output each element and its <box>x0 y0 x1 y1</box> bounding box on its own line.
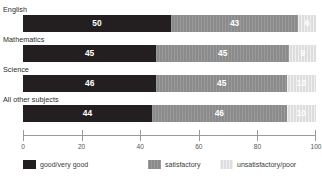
axis-tick-label: 0 <box>21 143 25 151</box>
axis-tick <box>82 130 83 141</box>
row-label: Science <box>3 66 29 74</box>
legend-item-sat[interactable]: satisfactory <box>148 160 200 169</box>
bar-segment-unsat: 6 <box>298 15 316 32</box>
chart-legend: good/very goodsatisfactoryunsatisfactory… <box>0 160 321 174</box>
bar-segment-good: 50 <box>23 15 171 32</box>
legend-swatch-icon <box>148 160 161 169</box>
axis-tick <box>199 130 200 141</box>
axis-tick <box>257 130 258 141</box>
stacked-bar: 464510 <box>23 75 316 92</box>
bar-segment-sat: 45 <box>156 75 287 92</box>
bar-segment-value: 43 <box>230 19 239 27</box>
legend-swatch-icon <box>23 160 36 169</box>
row-label: All other subjects <box>3 96 59 104</box>
bar-segment-value: 10 <box>297 109 306 117</box>
bar-segment-value: 45 <box>85 49 94 57</box>
axis-tick-label: 80 <box>254 143 261 151</box>
legend-label: satisfactory <box>165 160 200 169</box>
axis-tick-label: 100 <box>310 143 321 151</box>
stacked-bar: 45459 <box>23 45 316 62</box>
bar-segment-sat: 43 <box>171 15 298 32</box>
bar-segment-value: 45 <box>217 79 226 87</box>
legend-label: unsatisfactory/poor <box>237 160 296 169</box>
axis-tick-label: 20 <box>78 143 85 151</box>
axis-tick <box>315 130 316 141</box>
bar-segment-sat: 46 <box>152 105 287 122</box>
bar-segment-value: 9 <box>300 49 305 57</box>
row-label: English <box>3 6 27 14</box>
legend-item-unsat[interactable]: unsatisfactory/poor <box>220 160 296 169</box>
bar-segment-good: 44 <box>23 105 152 122</box>
x-axis: 020406080100 <box>0 130 321 154</box>
legend-swatch-icon <box>220 160 233 169</box>
axis-tick-label: 60 <box>195 143 202 151</box>
axis-tick-label: 40 <box>137 143 144 151</box>
axis-tick <box>23 130 24 141</box>
stacked-bar: 50436 <box>23 15 316 32</box>
bar-segment-value: 50 <box>92 19 101 27</box>
bar-segment-value: 44 <box>83 109 92 117</box>
bar-segment-unsat: 10 <box>287 75 316 92</box>
bar-segment-good: 46 <box>23 75 156 92</box>
bar-segment-value: 46 <box>215 109 224 117</box>
legend-label: good/very good <box>40 160 88 169</box>
bar-segment-value: 10 <box>297 79 306 87</box>
bar-segment-value: 46 <box>85 79 94 87</box>
bar-segment-unsat: 10 <box>287 105 316 122</box>
row-label: Mathematics <box>3 36 44 44</box>
axis-tick <box>140 130 141 141</box>
bar-segment-good: 45 <box>23 45 156 62</box>
bar-segment-sat: 45 <box>156 45 289 62</box>
stacked-bar: 444610 <box>23 105 316 122</box>
axis-line <box>23 135 316 136</box>
legend-item-good[interactable]: good/very good <box>23 160 88 169</box>
bar-segment-unsat: 9 <box>289 45 316 62</box>
bar-segment-value: 45 <box>218 49 227 57</box>
bar-segment-value: 6 <box>305 19 310 27</box>
footnote <box>3 178 318 183</box>
